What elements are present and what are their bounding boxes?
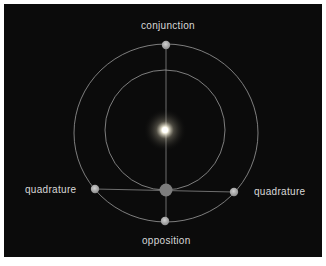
- planet-quadrature-right-icon: [230, 188, 238, 196]
- label-conjunction: conjunction: [141, 20, 195, 31]
- label-opposition: opposition: [142, 235, 191, 246]
- planet-opposition-icon: [161, 217, 169, 225]
- planet-quadrature-left-icon: [91, 185, 99, 193]
- label-quadrature-left: quadrature: [25, 184, 76, 195]
- planet-conjunction-icon: [162, 41, 170, 49]
- sun-core: [162, 127, 168, 133]
- earth-icon: [160, 184, 173, 197]
- orbit-diagram: [0, 0, 326, 266]
- label-quadrature-right: quadrature: [254, 186, 305, 197]
